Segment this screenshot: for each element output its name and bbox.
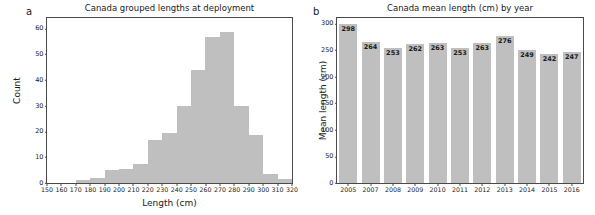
- panel-b-xtick: 2008: [385, 187, 401, 193]
- panel-a-bar: [162, 133, 176, 183]
- panel-b-bar: 247: [563, 52, 581, 183]
- panel-a-bar: [133, 164, 147, 183]
- panel-a-bar: [119, 169, 133, 183]
- panel-b-ytick: 300: [321, 20, 337, 27]
- panel-a-xlabel: Length (cm): [46, 199, 293, 208]
- panel-a-letter: a: [26, 7, 32, 17]
- panel-a-ytick: 10: [35, 154, 47, 161]
- panel-b-xtick: 2011: [452, 187, 468, 193]
- panel-b-bar: 298: [339, 24, 357, 183]
- panel-b-bar-value-label: 253: [384, 50, 402, 57]
- panel-a-xtick: 250: [185, 187, 197, 193]
- panel-b-bar: 263: [473, 43, 491, 183]
- panel-b-bar-value-label: 264: [362, 44, 380, 51]
- panel-a-xtick: 210: [127, 187, 139, 193]
- panel-b-letter: b: [313, 7, 319, 17]
- panel-b-xtick: 2016: [564, 187, 580, 193]
- panel-a-xtick: 170: [70, 187, 82, 193]
- panel-b-bar-value-label: 263: [473, 45, 491, 52]
- panel-a-xtick: 200: [113, 187, 125, 193]
- panel-b-ylabel: Mean length (cm): [319, 41, 328, 161]
- panel-a-ytick: 50: [35, 51, 47, 58]
- panel-b-bar-value-label: 249: [518, 52, 536, 59]
- panel-a-xtick: 230: [156, 187, 168, 193]
- panel-b-bar: 253: [384, 48, 402, 183]
- panel-a-xtick: 190: [99, 187, 111, 193]
- panel-a-xtick: 310: [272, 187, 284, 193]
- panel-b-ytick: 0: [329, 180, 337, 187]
- panel-a-xtick: 180: [84, 187, 96, 193]
- panel-a-ytick: 40: [35, 77, 47, 84]
- panel-a-xtick: 280: [228, 187, 240, 193]
- panel-a-xtick: 260: [200, 187, 212, 193]
- panel-b-bar: 263: [429, 43, 447, 183]
- panel-a-bar: [234, 106, 248, 183]
- panel-b-xtick: 2010: [430, 187, 446, 193]
- panel-b-bar-value-label: 262: [406, 46, 424, 53]
- panel-a-bar: [191, 70, 205, 183]
- panel-a-xtick: 240: [171, 187, 183, 193]
- panel-a-ytick: 30: [35, 102, 47, 109]
- panel-b-bar-chart: b Canada mean length (cm) by year 050100…: [300, 0, 595, 215]
- panel-a-ylabel: Count: [13, 61, 22, 121]
- panel-b-x-axis: 2005200720082009201020112012201320142015…: [337, 183, 583, 211]
- panel-b-xtick: 2014: [519, 187, 535, 193]
- panel-a-xtick: 290: [243, 187, 255, 193]
- panel-a-title: Canada grouped lengths at deployment: [46, 4, 293, 13]
- panel-a-xtick: 160: [55, 187, 67, 193]
- panel-a-bar: [220, 32, 234, 183]
- panel-b-bar-value-label: 253: [451, 50, 469, 57]
- panel-b-xtick: 2013: [497, 187, 513, 193]
- panel-b-xtick: 2009: [407, 187, 423, 193]
- panel-b-bars: 298264253262263253263276249242247: [337, 18, 583, 183]
- panel-a-xtick: 220: [142, 187, 154, 193]
- panel-b-bar: 242: [540, 54, 558, 183]
- panel-b-bar: 262: [406, 44, 424, 183]
- panel-b-bar: 249: [518, 50, 536, 183]
- panel-a-histogram: a Canada grouped lengths at deployment 0…: [0, 0, 300, 215]
- panel-b-plot-area: 050100150200250300 298264253262263253263…: [336, 17, 584, 184]
- panel-b-bar-value-label: 298: [339, 26, 357, 33]
- panel-b-title: Canada mean length (cm) by year: [336, 4, 584, 13]
- panel-b-bar: 253: [451, 48, 469, 183]
- panel-b-xtick: 2007: [363, 187, 379, 193]
- figure-container: a Canada grouped lengths at deployment 0…: [0, 0, 595, 215]
- panel-a-xtick: 300: [257, 187, 269, 193]
- panel-a-plot-area: 0102030405060 15016017018019020021022023…: [46, 17, 293, 184]
- panel-a-bar: [148, 140, 162, 183]
- panel-a-ytick: 60: [35, 25, 47, 32]
- panel-a-bar: [177, 106, 191, 183]
- panel-b-bar: 264: [362, 42, 380, 183]
- panel-a-bar: [205, 37, 219, 183]
- panel-b-xtick: 2015: [541, 187, 557, 193]
- panel-b-bar: 276: [496, 36, 514, 183]
- panel-a-bar: [105, 170, 119, 183]
- panel-a-ytick: 20: [35, 128, 47, 135]
- panel-a-xtick: 320: [286, 187, 298, 193]
- panel-a-bar: [263, 174, 277, 183]
- panel-b-xtick: 2012: [474, 187, 490, 193]
- panel-a-xtick: 270: [214, 187, 226, 193]
- panel-b-bar-value-label: 242: [540, 56, 558, 63]
- panel-b-bar-value-label: 247: [563, 54, 581, 61]
- panel-b-bar-value-label: 263: [429, 45, 447, 52]
- panel-a-bar: [249, 135, 263, 183]
- panel-b-bar-value-label: 276: [496, 38, 514, 45]
- panel-b-xtick: 2005: [340, 187, 356, 193]
- panel-a-bars: [47, 18, 292, 183]
- panel-a-xtick: 150: [41, 187, 53, 193]
